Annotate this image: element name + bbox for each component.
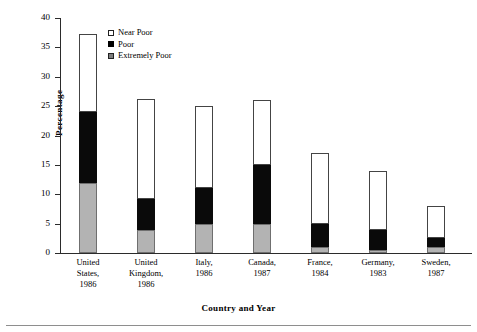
legend-item-near-poor: Near Poor <box>108 27 172 39</box>
x-axis-category-label: France,1984 <box>288 257 352 279</box>
y-axis-tick-label: 35 <box>28 42 50 51</box>
category-label-line: Italy, <box>172 257 236 268</box>
category-label-line: 1987 <box>230 268 294 279</box>
y-axis-tick-label: 30 <box>28 72 50 81</box>
bar-segment-poor <box>79 112 97 183</box>
category-label-line: 1983 <box>346 268 410 279</box>
category-label-line: United <box>114 257 178 268</box>
bar-segment-poor <box>253 165 271 224</box>
y-axis-tick-label: 20 <box>28 131 50 140</box>
x-axis-category-label: UnitedKingdom,1986 <box>114 257 178 290</box>
black-square-icon <box>108 41 114 47</box>
y-axis-tick-label: 10 <box>28 189 50 198</box>
category-label-line: 1986 <box>56 279 120 290</box>
bar-segment-poor <box>427 238 445 247</box>
x-axis-category-label: Germany,1983 <box>346 257 410 279</box>
x-axis-category-label: UnitedStates,1986 <box>56 257 120 290</box>
bar-group <box>253 100 271 253</box>
x-axis-line <box>60 253 472 254</box>
bar-segment-extremely-poor <box>253 224 271 253</box>
category-label-line: France, <box>288 257 352 268</box>
bottom-divider <box>6 325 471 326</box>
category-label-line: 1986 <box>172 268 236 279</box>
x-axis-category-labels: UnitedStates,1986UnitedKingdom,1986Italy… <box>60 257 472 309</box>
bar-segment-extremely-poor <box>137 230 155 254</box>
stacked-bar-chart: Percentage 0510152025303540 Near Poor Po… <box>0 0 477 332</box>
bar-group <box>79 34 97 253</box>
bar-group <box>137 99 155 253</box>
category-label-line: Sweden, <box>404 257 468 268</box>
category-label-line: 1986 <box>114 279 178 290</box>
y-axis-tick-label: 25 <box>28 101 50 110</box>
bar-segment-near-poor <box>253 100 271 165</box>
bar-group <box>311 153 329 253</box>
bar-segment-extremely-poor <box>427 247 445 253</box>
white-square-icon <box>108 30 114 36</box>
category-label-line: Germany, <box>346 257 410 268</box>
category-label-line: United <box>56 257 120 268</box>
y-axis-tick-label: 15 <box>28 160 50 169</box>
legend-item-poor: Poor <box>108 39 172 51</box>
x-axis-category-label: Canada,1987 <box>230 257 294 279</box>
bar-segment-poor <box>195 188 213 224</box>
y-axis-tick-label: 5 <box>28 219 50 228</box>
bar-group <box>195 106 213 253</box>
category-label-line: Canada, <box>230 257 294 268</box>
y-axis-tick <box>55 253 60 254</box>
category-label-line: Kingdom, <box>114 268 178 279</box>
y-axis-tick-label: 0 <box>28 248 50 257</box>
legend-item-extremely-poor: Extremely Poor <box>108 50 172 62</box>
y-axis-tick-label: 40 <box>28 13 50 22</box>
x-axis-category-label: Italy,1986 <box>172 257 236 279</box>
category-label-line: States, <box>56 268 120 279</box>
bar-segment-extremely-poor <box>369 250 387 253</box>
legend: Near Poor Poor Extremely Poor <box>108 27 172 62</box>
bar-segment-extremely-poor <box>311 247 329 253</box>
bar-segment-near-poor <box>369 171 387 230</box>
legend-label: Extremely Poor <box>118 50 172 62</box>
gray-square-icon <box>108 53 114 59</box>
bar-segment-extremely-poor <box>195 224 213 253</box>
bar-segment-extremely-poor <box>79 183 97 254</box>
x-axis-category-label: Sweden,1987 <box>404 257 468 279</box>
category-label-line: 1984 <box>288 268 352 279</box>
legend-label: Near Poor <box>118 27 153 39</box>
bar-segment-poor <box>311 224 329 248</box>
bar-segment-poor <box>137 199 155 230</box>
bar-segment-near-poor <box>311 153 329 224</box>
x-axis-title: Country and Year <box>0 303 477 313</box>
bar-group <box>427 206 445 253</box>
category-label-line: 1987 <box>404 268 468 279</box>
bar-group <box>369 171 387 253</box>
bar-segment-near-poor <box>195 106 213 188</box>
bar-segment-poor <box>369 230 387 250</box>
bar-segment-near-poor <box>427 206 445 238</box>
bar-segment-near-poor <box>79 34 97 112</box>
legend-label: Poor <box>118 39 134 51</box>
bar-segment-near-poor <box>137 99 155 199</box>
